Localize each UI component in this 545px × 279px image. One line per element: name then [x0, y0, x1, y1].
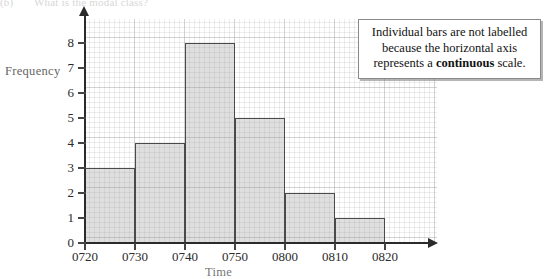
histogram-bar [285, 193, 335, 243]
y-tick-label: 0 [58, 237, 74, 249]
y-tick-label: 5 [58, 112, 74, 124]
x-tick-label: 0750 [211, 249, 259, 265]
histogram-bar [235, 118, 285, 243]
x-tick-label: 0720 [61, 249, 109, 265]
x-tick-label: 0810 [311, 249, 359, 265]
histogram-page: (b)What is the modal class? 0 1 2 3 4 5 [0, 0, 545, 279]
histogram-bar [335, 218, 385, 243]
y-tick-label: 8 [58, 37, 74, 49]
y-axis-arrow [79, 6, 89, 16]
x-tick-label: 0800 [261, 249, 309, 265]
x-tick-label: 0820 [361, 249, 409, 265]
y-tick-label: 3 [58, 162, 74, 174]
callout-line-3-prefix: represents a [373, 56, 435, 70]
y-tick-label: 1 [58, 212, 74, 224]
histogram-bar [185, 43, 235, 243]
callout-line-2: because the horizontal axis [382, 41, 517, 55]
histogram-bar [85, 168, 135, 243]
callout-line-3-suffix: scale. [494, 56, 525, 70]
x-axis-title: Time [0, 265, 437, 279]
x-tick-label: 0730 [111, 249, 159, 265]
y-tick [78, 142, 86, 144]
y-tick [78, 167, 86, 169]
histogram-bar [135, 143, 185, 243]
y-tick-label: 6 [58, 87, 74, 99]
x-tick-label: 0740 [161, 249, 209, 265]
y-tick [78, 217, 86, 219]
callout-emphasis-continuous: continuous [436, 56, 494, 70]
y-axis-line [84, 14, 86, 243]
y-tick [78, 117, 86, 119]
y-axis-title: Frequency [5, 64, 60, 79]
y-tick [78, 67, 86, 69]
y-tick [78, 42, 86, 44]
y-tick-label: 4 [58, 137, 74, 149]
y-tick-label: 2 [58, 187, 74, 199]
x-axis-arrow [428, 238, 438, 248]
y-tick [78, 92, 86, 94]
y-tick [78, 192, 86, 194]
callout-note: Individual bars are not labelled because… [358, 19, 541, 79]
callout-line-1: Individual bars are not labelled [372, 25, 528, 39]
